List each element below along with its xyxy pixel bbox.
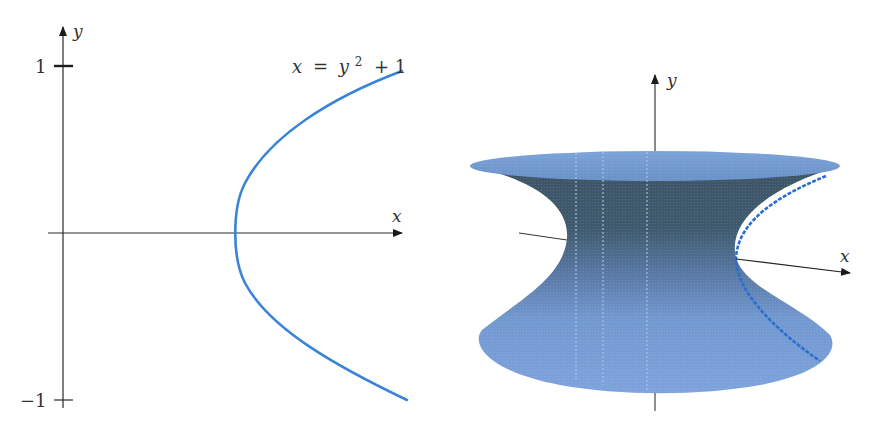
left-plot: y x 1 −1 x = y 2 + 1 — [20, 21, 407, 411]
y-axis-label: y — [72, 21, 83, 41]
tick-bottom-label: −1 — [20, 390, 47, 411]
surface-texture — [470, 166, 840, 393]
rim-texture — [470, 151, 840, 181]
surface-y-axis-label: y — [666, 70, 677, 90]
parabola-curve — [235, 71, 407, 400]
tick-top-label: 1 — [35, 56, 46, 77]
surface-z-axis — [519, 233, 567, 240]
curve-equation-label: x = y 2 + 1 — [292, 49, 406, 77]
surface-x-axis-label: x — [840, 246, 850, 266]
figure: y x 1 −1 x = y 2 + 1 y — [0, 0, 880, 435]
right-plot: y x — [470, 70, 850, 411]
surface-x-axis — [736, 259, 850, 273]
x-axis-label: x — [392, 206, 402, 226]
